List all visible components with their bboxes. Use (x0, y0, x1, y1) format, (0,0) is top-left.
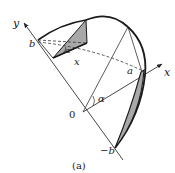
alpha-arc-origin (93, 96, 95, 106)
neg-b-label: −b (100, 145, 115, 156)
x-axis (83, 64, 162, 112)
outer-curve (86, 16, 145, 148)
dashed-arc (38, 42, 141, 70)
x-inner-label: x (74, 56, 80, 67)
alpha-top-label: α (65, 46, 71, 55)
y-axis-label: y (12, 17, 20, 30)
x-axis-label: x (164, 66, 171, 79)
radial-line (83, 27, 128, 112)
alpha-origin-label: α (98, 93, 105, 104)
shaded-lens (115, 70, 144, 148)
figure-caption: (a) (72, 160, 86, 171)
origin-label: 0 (69, 109, 75, 120)
b-label: b (29, 38, 35, 49)
a-label: a (127, 65, 133, 76)
diagram-figure: y x b x α a α 0 −b (a) (0, 0, 175, 173)
